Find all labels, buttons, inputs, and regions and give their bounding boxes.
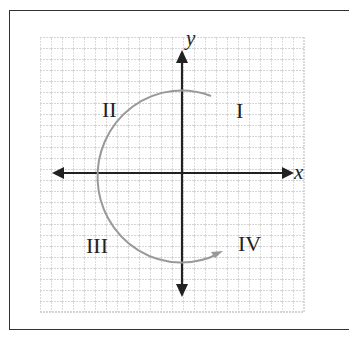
x-axis-label: x — [294, 162, 303, 183]
quadrant-label-I: I — [236, 100, 243, 122]
y-axis-label: y — [186, 28, 195, 49]
quadrant-label-II: II — [102, 99, 117, 121]
grid — [40, 37, 304, 312]
quadrant-label-IV: IV — [238, 233, 261, 255]
quadrant-label-III: III — [86, 235, 108, 257]
